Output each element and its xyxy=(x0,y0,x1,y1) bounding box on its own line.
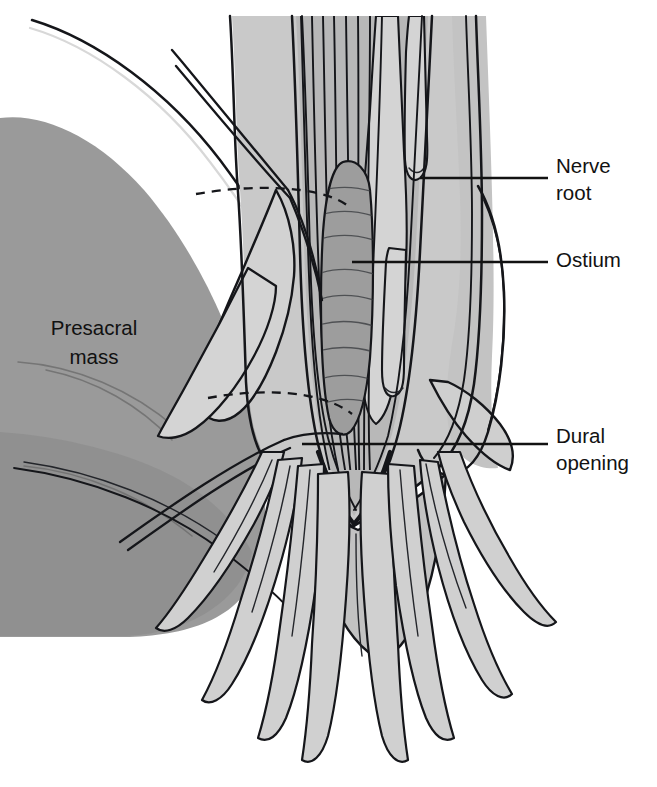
nerve-root-loop-lower xyxy=(382,248,406,396)
illustration-canvas: Nerve root Ostium Dural opening Presacra… xyxy=(0,0,657,787)
label-nerve-root: Nerve root xyxy=(556,154,611,204)
label-presacral-mass-line1: Presacral xyxy=(51,316,138,339)
label-presacral-mass-line2: mass xyxy=(70,345,119,368)
label-dural-opening: Dural opening xyxy=(556,424,629,474)
label-ostium-line1: Ostium xyxy=(556,248,621,271)
label-dural-opening-line1: Dural xyxy=(556,424,605,447)
anatomy-illustration: Nerve root Ostium Dural opening Presacra… xyxy=(0,0,657,787)
label-nerve-root-line2: root xyxy=(556,181,592,204)
label-nerve-root-line1: Nerve xyxy=(556,154,611,177)
label-ostium: Ostium xyxy=(556,248,621,271)
label-dural-opening-line2: opening xyxy=(556,451,629,474)
